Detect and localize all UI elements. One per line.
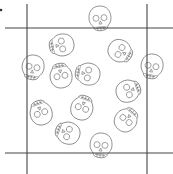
skull-icon <box>26 97 55 128</box>
skull-icon <box>52 118 83 147</box>
skull-icon <box>48 32 76 58</box>
skull-icon <box>110 103 143 136</box>
skull-icon <box>68 92 97 123</box>
skull-tile-diagram <box>0 0 173 174</box>
skull-icon <box>48 62 74 90</box>
skull-icon <box>74 61 102 87</box>
skull-icon <box>20 53 46 81</box>
corner-dot <box>0 9 2 12</box>
skull-icon <box>89 132 113 159</box>
crop-lines <box>5 4 173 174</box>
skull-icon <box>139 52 165 80</box>
skull-icon <box>113 76 144 105</box>
skull-icon <box>104 35 136 66</box>
